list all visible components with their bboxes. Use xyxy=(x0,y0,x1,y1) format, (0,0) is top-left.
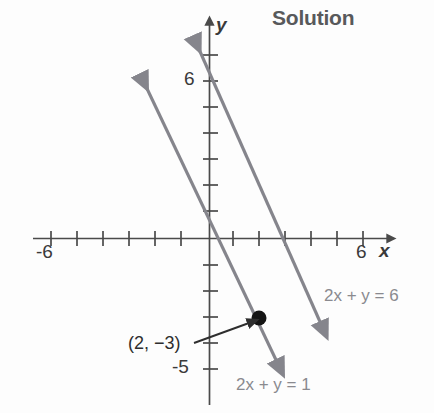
equation-label-line-2: 2x + y = 6 xyxy=(324,286,399,306)
y-tick-label-negative-5: -5 xyxy=(172,356,189,378)
x-tick-label-6: 6 xyxy=(356,241,367,263)
intersection-point-label: (2, −3) xyxy=(128,333,181,354)
intersection-point-marker xyxy=(252,311,267,326)
y-tick-label-6: 6 xyxy=(184,68,195,90)
point-callout-arrow xyxy=(194,323,249,343)
equation-label-line-1: 2x + y = 1 xyxy=(236,375,311,395)
x-axis xyxy=(33,231,388,246)
line-2x-plus-y-equals-6 xyxy=(194,38,321,324)
coordinate-plane-svg xyxy=(0,0,434,413)
x-axis-label: x xyxy=(379,240,390,262)
page-title: Solution xyxy=(272,6,354,30)
graph-figure: Solution y x -6 6 6 -5 (2, −3) 2x + y = … xyxy=(0,0,434,413)
x-tick-label-negative-6: -6 xyxy=(36,241,53,263)
y-axis-label: y xyxy=(216,14,227,36)
